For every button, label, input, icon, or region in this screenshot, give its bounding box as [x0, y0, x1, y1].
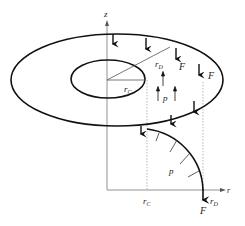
force-label-2: F — [207, 70, 215, 81]
rd-tick-label: rD — [210, 196, 219, 207]
z-axis-label: z — [103, 9, 108, 19]
r-axis — [107, 188, 226, 192]
rc-label: rC — [124, 84, 133, 95]
pressure-label-top: p — [162, 93, 168, 103]
annular-plate-diagram: z r rD rC F F p — [0, 0, 245, 226]
z-axis — [105, 20, 109, 190]
pressure-label-bottom: p — [168, 166, 174, 176]
force-label-1: F — [178, 61, 186, 72]
bottom-force-label: F — [199, 205, 207, 216]
r-axis-label: r — [227, 186, 231, 195]
rc-tick-label: rC — [143, 196, 152, 207]
rd-label: rD — [155, 59, 164, 70]
curve-pressure-ticks — [156, 133, 199, 177]
deflection-curve — [147, 129, 203, 190]
